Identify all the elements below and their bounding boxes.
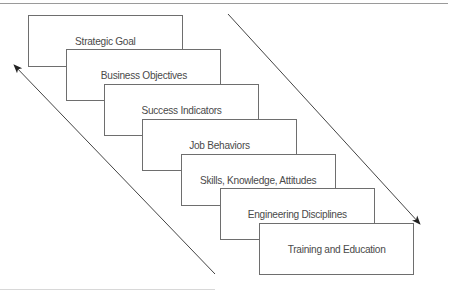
box-label: Training and Education — [288, 243, 386, 255]
box-label: Success Indicators — [141, 104, 221, 116]
box-label: Engineering Disciplines — [248, 208, 347, 220]
box-label: Skills, Knowledge, Attitudes — [200, 174, 316, 186]
box-label: Job Behaviors — [189, 139, 250, 151]
box-training-and-education: Training and Education — [259, 223, 414, 275]
box-label: Strategic Goal — [75, 35, 135, 47]
box-label: Business Objectives — [100, 69, 186, 81]
